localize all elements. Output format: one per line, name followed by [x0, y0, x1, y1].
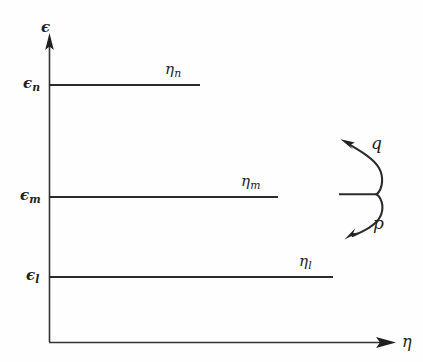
energy-level-lines	[49, 85, 333, 277]
level-label-eta-m-base: η	[241, 172, 250, 190]
vertex-label-p: p	[373, 215, 384, 232]
tick-label-epsilon-l: ϵl	[26, 268, 39, 283]
x-axis-label: η	[402, 334, 412, 350]
level-label-eta-l-sub: l	[308, 259, 311, 272]
tick-label-epsilon-m: ϵm	[20, 188, 41, 203]
figure-canvas	[0, 0, 423, 362]
y-axis-label-text: ϵ	[41, 18, 50, 36]
tick-label-epsilon-n: ϵn	[23, 76, 40, 91]
y-axis	[45, 33, 54, 342]
vertex-label-p-text: p	[373, 213, 384, 233]
level-label-eta-m-sub: m	[250, 179, 260, 192]
tick-label-epsilon-m-base: ϵ	[20, 186, 29, 204]
vertex-label-q-text: q	[371, 133, 382, 153]
energy-level-figure: ϵ η ϵn ϵm ϵl ηn ηm ηl q p	[0, 0, 423, 362]
tick-label-epsilon-m-sub: m	[29, 193, 40, 206]
arrow-q-head	[341, 139, 355, 150]
level-label-eta-m: ηm	[241, 174, 260, 189]
tick-label-epsilon-l-sub: l	[35, 273, 39, 286]
level-label-eta-l: ηl	[299, 254, 311, 269]
level-label-eta-n: ηn	[165, 62, 181, 77]
tick-label-epsilon-l-base: ϵ	[26, 266, 35, 284]
x-axis	[49, 337, 396, 348]
level-label-eta-n-base: η	[165, 60, 174, 78]
level-label-eta-l-base: η	[299, 252, 308, 270]
level-label-eta-n-sub: n	[174, 67, 181, 80]
x-axis-label-text: η	[402, 332, 412, 351]
y-axis-label: ϵ	[41, 20, 50, 35]
tick-label-epsilon-n-sub: n	[32, 81, 40, 94]
tick-label-epsilon-n-base: ϵ	[23, 74, 32, 92]
vertex-label-q: q	[371, 135, 382, 152]
